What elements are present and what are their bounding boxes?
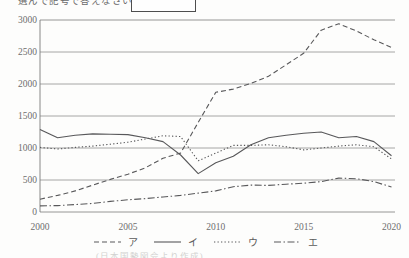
- y-axis-tick-label: 2500: [18, 47, 37, 57]
- y-axis-tick-label: 1500: [18, 111, 37, 121]
- legend-label-3: ウ: [248, 237, 258, 248]
- legend-label-4: エ: [308, 237, 318, 248]
- y-axis-tick-label: 1000: [18, 143, 37, 153]
- x-axis-tick-label: 2015: [294, 222, 313, 232]
- y-axis-tick-label: 0: [32, 207, 37, 217]
- question-text: 選んで記号で答えなさい。: [18, 0, 143, 7]
- x-axis-tick-label: 2005: [118, 222, 137, 232]
- y-axis-tick-label: 3000: [18, 15, 37, 25]
- series-line-1: [40, 24, 392, 199]
- legend-label-1: ア: [128, 237, 138, 248]
- answer-box: [131, 0, 196, 12]
- x-axis-tick-label: 2010: [206, 222, 225, 232]
- question-text-clipped-row: 選んで記号で答えなさい。: [0, 0, 409, 13]
- series-line-2: [40, 129, 392, 173]
- series-line-4: [40, 178, 392, 206]
- x-axis-tick-label: 2020: [382, 222, 401, 232]
- y-axis-tick-label: 500: [23, 175, 38, 185]
- chart-svg: 0500100015002000250030002000200520102015…: [0, 0, 409, 258]
- line-chart: 0500100015002000250030002000200520102015…: [0, 0, 409, 258]
- y-axis-tick-label: 2000: [18, 79, 37, 89]
- worksheet-scan: 0500100015002000250030002000200520102015…: [0, 0, 409, 258]
- legend-label-2: イ: [188, 237, 198, 248]
- x-axis-tick-label: 2000: [31, 222, 50, 232]
